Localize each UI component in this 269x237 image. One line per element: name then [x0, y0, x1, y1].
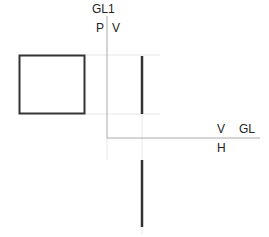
gl-label: GL: [239, 123, 255, 135]
profile-view-square: [20, 56, 85, 114]
v-right-label: V: [217, 123, 225, 135]
projection-diagram: [0, 0, 269, 237]
v-top-label: V: [112, 22, 120, 34]
gl1-label: GL1: [92, 3, 115, 15]
p-label: P: [96, 22, 104, 34]
projection-lines: [85, 55, 160, 235]
h-label: H: [217, 142, 226, 154]
